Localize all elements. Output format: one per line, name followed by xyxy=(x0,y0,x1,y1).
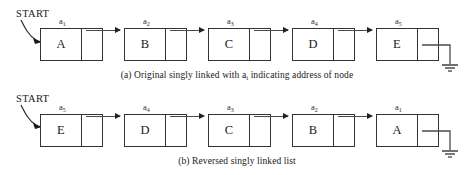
node-pointer-cell xyxy=(333,115,354,146)
node-address-label: a1 xyxy=(395,102,402,112)
node-data-cell: B xyxy=(125,29,166,60)
node-pointer-cell xyxy=(165,115,186,146)
list-node: a2 B xyxy=(292,114,355,147)
node-data-cell: E xyxy=(41,115,82,146)
node-pointer-cell xyxy=(165,29,186,60)
link-arrow xyxy=(170,116,204,117)
list-node: a2 B xyxy=(124,28,187,61)
node-pointer-cell xyxy=(81,115,102,146)
node-data-cell: C xyxy=(209,115,250,146)
caption-b: (b) Reversed singly linked list xyxy=(0,156,474,166)
diagram-b: START a5 E a4 D a3 C xyxy=(0,100,474,162)
node-pointer-cell xyxy=(81,29,102,60)
node-data-cell: D xyxy=(125,115,166,146)
list-node: a4 D xyxy=(124,114,187,147)
node-data-cell: A xyxy=(41,29,82,60)
linked-list-figure: START a1 A a2 B a3 C xyxy=(0,0,474,175)
list-node: a4 D xyxy=(292,28,355,61)
link-arrow xyxy=(86,116,120,117)
node-data-cell: B xyxy=(293,115,334,146)
node-address-label: a3 xyxy=(227,102,234,112)
link-arrow xyxy=(254,116,288,117)
node-address-label: a4 xyxy=(143,102,150,112)
node-pointer-cell xyxy=(249,115,270,146)
link-arrow xyxy=(338,116,372,117)
node-data-cell: D xyxy=(293,29,334,60)
node-data-cell: C xyxy=(209,29,250,60)
list-node: a3 C xyxy=(208,114,271,147)
node-address-label: a4 xyxy=(311,16,318,26)
link-arrow xyxy=(170,30,204,31)
link-arrow xyxy=(86,30,120,31)
node-data-cell: A xyxy=(377,115,418,146)
link-arrow xyxy=(338,30,372,31)
caption-a: (a) Original singly linked with ai indic… xyxy=(0,70,474,80)
node-address-label: a5 xyxy=(59,102,66,112)
node-data-cell: E xyxy=(377,29,418,60)
node-address-label: a2 xyxy=(311,102,318,112)
node-pointer-cell xyxy=(333,29,354,60)
node-address-label: a5 xyxy=(395,16,402,26)
diagram-a: START a1 A a2 B a3 C xyxy=(0,14,474,76)
link-arrow xyxy=(254,30,288,31)
node-address-label: a3 xyxy=(227,16,234,26)
node-address-label: a2 xyxy=(143,16,150,26)
node-address-label: a1 xyxy=(59,16,66,26)
list-node: a5 E xyxy=(40,114,103,147)
list-node: a1 A xyxy=(40,28,103,61)
list-node: a3 C xyxy=(208,28,271,61)
node-pointer-cell xyxy=(249,29,270,60)
